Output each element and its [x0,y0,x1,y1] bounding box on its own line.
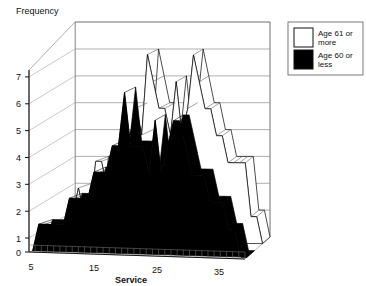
y-tick-label-1: 1 [16,234,21,244]
legend-swatch-age-61-or-more[interactable] [294,28,313,47]
y-tick-label-0: 0 [16,248,21,258]
legend: Age 61 or more Age 60 or less [288,22,363,75]
y-tick-label-3: 3 [16,180,21,190]
x-tick-label-15: 15 [89,263,99,273]
legend-swatch-age-60-or-less[interactable] [294,50,313,69]
y-axis-title: Frequency [16,6,59,16]
y-tick-label-7: 7 [16,72,21,82]
x-tick-label-35: 35 [214,267,224,277]
legend-label-age-60-or-less-line1: Age 60 or [318,51,353,60]
y-tick-label-6: 6 [16,99,21,109]
x-axis-title: Service [115,275,147,285]
y-tick-label-4: 4 [16,153,21,163]
x-tick-label-5: 5 [28,262,33,272]
chart-root: Frequency [0,0,366,286]
y-tick-label-2: 2 [16,207,21,217]
x-tick-label-25: 25 [152,265,162,275]
frequency-service-3d-area-chart: Frequency [0,0,366,286]
legend-label-age-60-or-less-line2: less [318,60,332,69]
legend-label-age-61-or-more-line1: Age 61 or [318,29,353,38]
legend-label-age-61-or-more-line2: more [318,38,337,47]
y-tick-label-5: 5 [16,126,21,136]
